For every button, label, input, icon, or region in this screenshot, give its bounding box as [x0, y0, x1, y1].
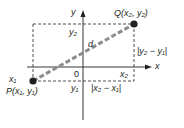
y-axis-arrow-icon	[81, 10, 86, 17]
point-Q	[130, 20, 137, 27]
y-axis	[81, 10, 86, 120]
y1-label: y₁	[71, 84, 78, 93]
x2-label: x₂	[120, 70, 128, 79]
x-axis	[27, 65, 152, 70]
y-axis-label: y	[71, 8, 76, 17]
x-axis-arrow-icon	[145, 65, 152, 70]
y2-label: y₂	[69, 28, 77, 37]
x1-label: x₁	[9, 75, 16, 84]
x-axis-label: x	[155, 62, 160, 71]
point-Q-label: Q(x₂, y₂)	[114, 9, 148, 18]
distance-label: d	[88, 40, 93, 49]
origin-label: 0	[74, 70, 79, 79]
dy-label: |y₂ − y₁|	[137, 47, 167, 56]
point-P	[29, 77, 36, 84]
dx-label: |x₂ − x₁|	[91, 84, 121, 93]
distance-formula-diagram: y x 0 Q(x₂, y₂) P(x₁, y₁) y₂ d |y₂ − y₁|…	[0, 0, 184, 128]
distance-segment	[33, 24, 134, 81]
point-P-label: P(x₁, y₁)	[6, 87, 38, 96]
